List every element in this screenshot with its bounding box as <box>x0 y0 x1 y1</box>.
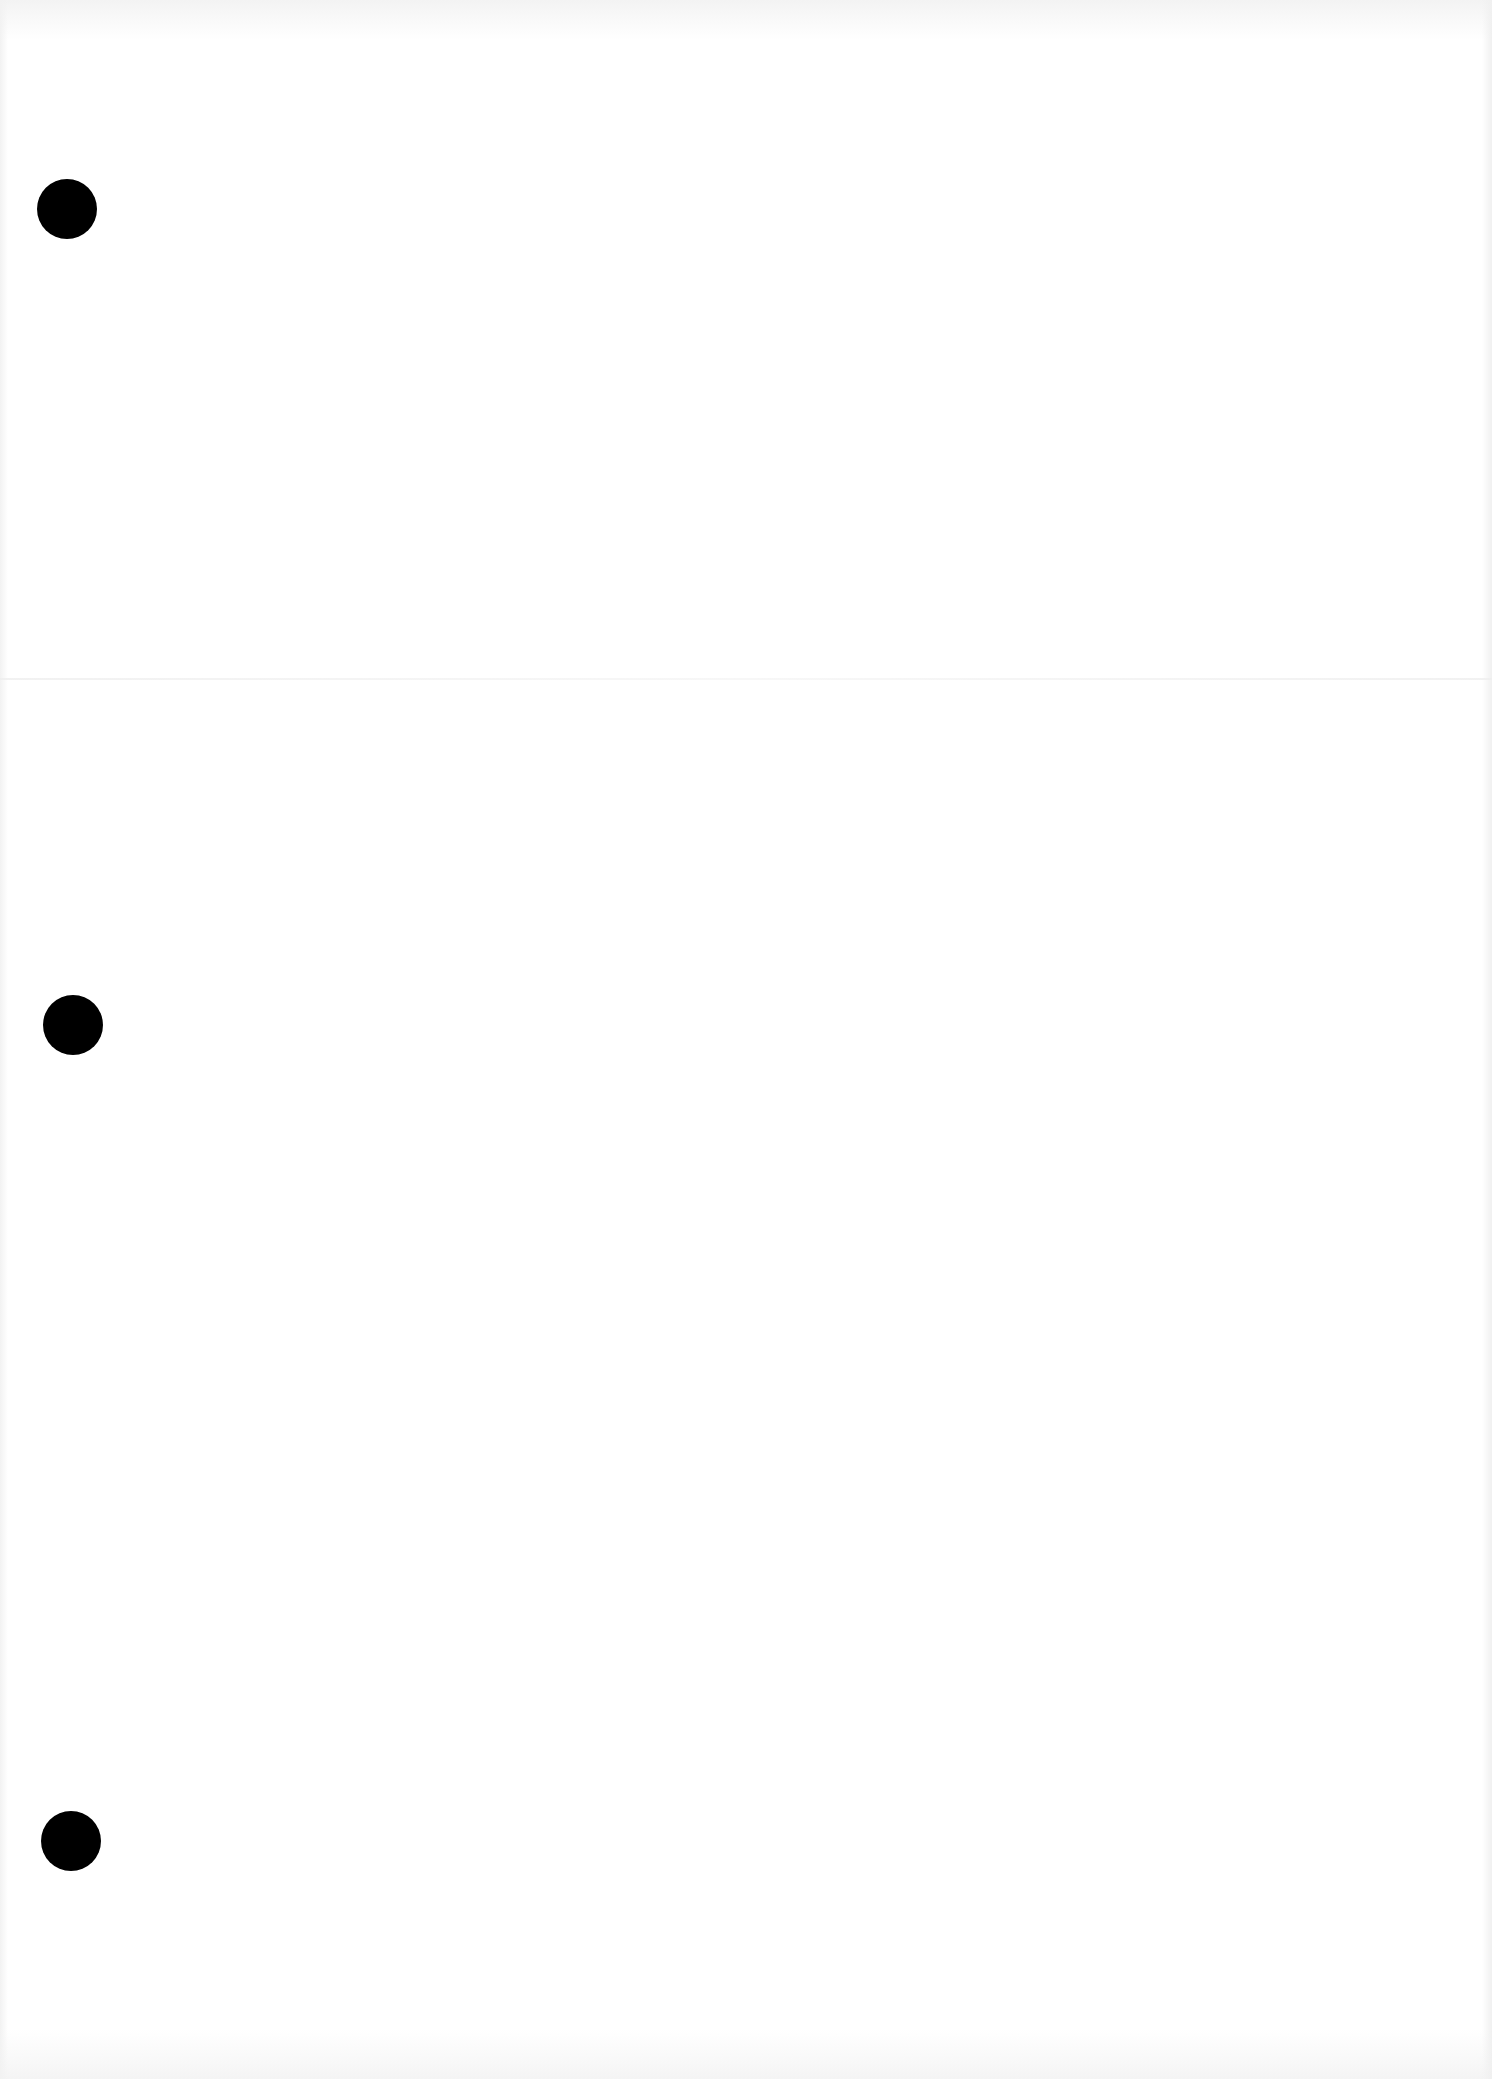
blank-page <box>0 0 1492 2079</box>
punch-hole-middle <box>43 995 103 1055</box>
scan-edge-bottom <box>0 2029 1492 2079</box>
punch-hole-top <box>37 179 97 239</box>
punch-hole-bottom <box>41 1811 101 1871</box>
fold-crease <box>0 678 1492 680</box>
scan-edge-right <box>1482 0 1492 2079</box>
scan-edge-left <box>0 0 8 2079</box>
scan-edge-top <box>0 0 1492 40</box>
